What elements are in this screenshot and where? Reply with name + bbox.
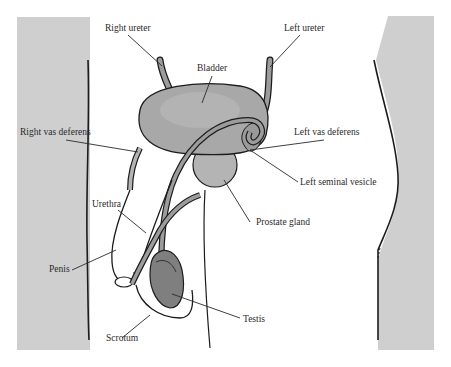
right-vas-deferens-tube <box>130 148 140 190</box>
left-body-panel <box>17 17 90 350</box>
label-left-seminal-vesicle: Left seminal vesicle <box>300 178 377 188</box>
label-left-ureter: Left ureter <box>284 24 324 34</box>
anatomy-diagram <box>0 0 451 367</box>
label-scrotum: Scrotum <box>106 334 138 344</box>
right-body-panel <box>374 16 434 350</box>
label-prostate-gland: Prostate gland <box>256 218 310 228</box>
label-right-vas-deferens: Right vas deferens <box>20 128 91 138</box>
midline <box>204 190 210 348</box>
label-penis: Penis <box>49 265 70 275</box>
label-bladder: Bladder <box>197 64 227 74</box>
label-testis: Testis <box>243 315 265 325</box>
label-urethra: Urethra <box>92 200 121 210</box>
label-right-ureter: Right ureter <box>105 24 151 34</box>
leader-lines <box>66 35 324 338</box>
testis-shape <box>150 250 184 308</box>
label-left-vas-deferens: Left vas deferens <box>294 128 359 138</box>
